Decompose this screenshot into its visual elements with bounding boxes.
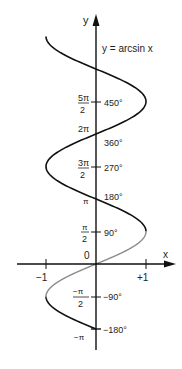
y-tick-label-450: 450° xyxy=(104,98,123,108)
chart-title: y = arcsin x xyxy=(102,43,153,54)
y-tick-label-neg180: −180° xyxy=(103,325,127,335)
x-axis-arrow-icon xyxy=(164,261,176,268)
y-tick-label-270: 270° xyxy=(104,163,123,173)
y-tick-label-3pi2-den: 2 xyxy=(80,170,85,180)
y-tick-label-npi: −π xyxy=(74,333,85,342)
y-tick-label-pi: π xyxy=(83,197,89,206)
y-tick-label-npi2-num: −π xyxy=(73,287,84,296)
y-tick-label-3pi2-num: 3π xyxy=(78,158,89,168)
y-tick-label-90: 90° xyxy=(104,228,118,238)
y-axis-label: y xyxy=(83,14,89,26)
y-tick-label-5pi2-num: 5π xyxy=(78,93,89,103)
y-tick-label-neg90: −90° xyxy=(103,292,122,302)
y-tick-label-pi2-num: π xyxy=(82,223,88,232)
y-tick-label-5pi2-den: 2 xyxy=(80,105,85,115)
arcsin-chart: y x y = arcsin x 0 −1 +1 5π 2 450° 2π 36… xyxy=(0,0,182,369)
x-tick-label-neg1: −1 xyxy=(36,272,48,283)
y-tick-label-180: 180° xyxy=(104,192,123,202)
x-tick-label-pos1: +1 xyxy=(137,272,149,283)
y-tick-label-360: 360° xyxy=(104,138,123,148)
y-tick-label-npi2-den: 2 xyxy=(78,299,83,309)
origin-label: 0 xyxy=(84,250,90,261)
y-tick-label-pi2-den: 2 xyxy=(82,234,87,244)
y-axis-arrow-icon xyxy=(93,14,100,26)
y-tick-label-2pi: 2π xyxy=(78,124,89,134)
x-axis-label: x xyxy=(163,249,168,260)
